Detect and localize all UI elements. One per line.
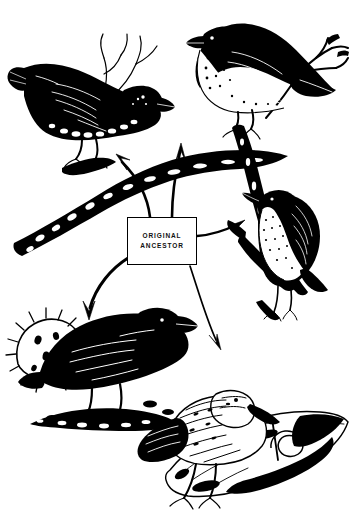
original-ancestor-box: ORIGINAL ANCESTOR	[127, 217, 197, 265]
adaptive-radiation-figure: Adaptive radiation of Darwin's finches	[0, 0, 350, 527]
original-ancestor-line-1: ORIGINAL	[143, 231, 182, 241]
original-ancestor-line-2: ANCESTOR	[140, 241, 184, 251]
